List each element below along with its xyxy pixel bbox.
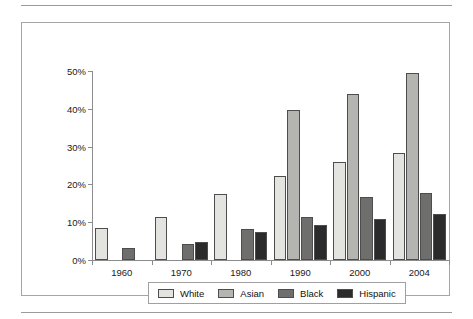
bar-black-1970 [182,244,195,260]
legend-item-hispanic: Hispanic [337,288,395,299]
y-axis-tick-mark [88,184,92,185]
x-axis-tick-mark [330,261,331,265]
x-axis-tick-mark [271,261,272,265]
y-axis-tick-mark [88,147,92,148]
y-axis-tick-label: 50% [67,66,86,77]
bar-asian-2004 [406,73,419,260]
x-axis-tick-mark [211,261,212,265]
legend-label-hispanic: Hispanic [359,288,395,299]
bar-asian-1990 [287,110,300,260]
y-axis-tick-mark [88,71,92,72]
x-axis-tick-label: 1980 [230,267,251,278]
legend-swatch-hispanic [337,289,353,298]
bar-black-2000 [360,197,373,260]
x-axis-tick-label: 2004 [409,267,430,278]
bar-white-1990 [274,176,287,260]
y-axis-tick-label: 40% [67,103,86,114]
legend-swatch-white [158,289,174,298]
x-axis-tick-mark [152,261,153,265]
bar-black-1980 [241,229,254,260]
x-axis-tick-label: 1990 [290,267,311,278]
bar-hispanic-1980 [255,232,268,260]
top-horizontal-rule [21,5,452,6]
legend-swatch-black [278,289,294,298]
bar-hispanic-2000 [374,219,387,260]
x-axis-tick-label: 2000 [349,267,370,278]
chart-frame: 0%10%20%30%40%50% 1960197019801990200020… [21,22,450,296]
legend-item-asian: Asian [218,288,264,299]
legend-label-asian: Asian [240,288,264,299]
y-axis-tick-mark [88,109,92,110]
y-axis-tick-label: 10% [67,217,86,228]
bar-white-2000 [333,162,346,260]
bar-white-1980 [214,194,227,260]
x-axis-tick-mark [390,261,391,265]
bar-hispanic-2004 [433,214,446,260]
bottom-horizontal-rule [21,312,452,313]
bar-asian-2000 [347,94,360,260]
bar-hispanic-1990 [314,225,327,260]
bar-black-1990 [301,217,314,260]
legend-label-black: Black [300,288,323,299]
bar-hispanic-1970 [195,242,208,260]
bar-white-1970 [155,217,168,260]
y-axis-line [92,71,93,261]
x-axis-tick-mark [92,261,93,265]
x-axis-tick-label: 1960 [111,267,132,278]
y-axis-tick-label: 20% [67,179,86,190]
bar-black-1960 [122,248,135,260]
legend-swatch-asian [218,289,234,298]
bar-black-2004 [420,193,433,260]
bar-white-2004 [393,153,406,260]
x-axis-tick-label: 1970 [171,267,192,278]
figure-page: 0%10%20%30%40%50% 1960197019801990200020… [0,0,473,319]
legend-label-white: White [180,288,204,299]
bar-white-1960 [95,228,108,260]
y-axis-tick-mark [88,222,92,223]
x-axis-tick-mark [449,261,450,265]
legend-item-white: White [158,288,204,299]
y-axis-tick-label: 0% [72,255,86,266]
legend-item-black: Black [278,288,323,299]
chart-legend: WhiteAsianBlackHispanic [148,282,406,304]
y-axis-tick-label: 30% [67,141,86,152]
